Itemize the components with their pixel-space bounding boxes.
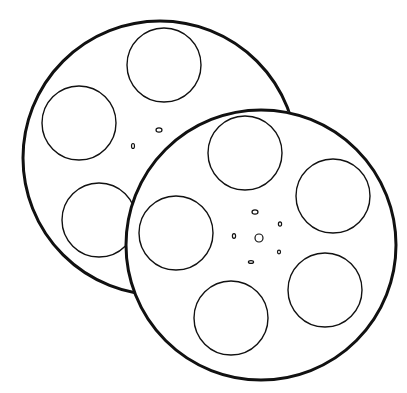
film-reels-illustration	[0, 0, 407, 393]
film-reels-drawing	[0, 0, 407, 393]
front-film-reel-icon	[126, 110, 396, 380]
